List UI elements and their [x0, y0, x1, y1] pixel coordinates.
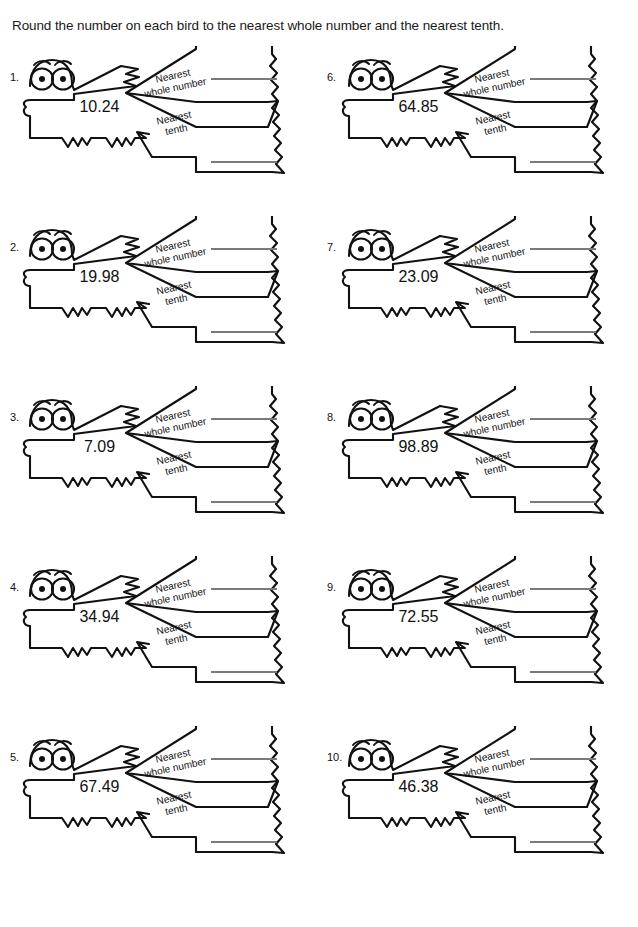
bird-problem-1: 1. 10.24 Nearest whole number Nearest te… — [0, 46, 319, 216]
bird-problem-4: 7. 23.09 Nearest whole number Nearest te… — [319, 216, 638, 386]
problem-row: 4. 34.94 Nearest whole number Nearest te… — [0, 556, 638, 726]
problem-row: 1. 10.24 Nearest whole number Nearest te… — [0, 46, 638, 216]
bird-problem-6: 8. 98.89 Nearest whole number Nearest te… — [319, 386, 638, 556]
page-title: Round the number on each bird to the nea… — [12, 18, 504, 33]
bird-right-pupil — [379, 76, 385, 82]
problem-grid: 1. 10.24 Nearest whole number Nearest te… — [0, 46, 638, 896]
problem-number: 2. — [10, 241, 19, 253]
bird-left-pupil — [39, 586, 45, 592]
problem-row: 5. 67.49 Nearest whole number Nearest te… — [0, 726, 638, 896]
bird-left-pupil — [39, 76, 45, 82]
problem-row: 2. 19.98 Nearest whole number Nearest te… — [0, 216, 638, 386]
bird-left-pupil — [39, 416, 45, 422]
bird-right-pupil — [60, 246, 66, 252]
problem-number: 6. — [327, 71, 336, 83]
bird-left-pupil — [39, 246, 45, 252]
bird-right-pupil — [60, 416, 66, 422]
problem-number: 9. — [327, 581, 336, 593]
bird-problem-2: 6. 64.85 Nearest whole number Nearest te… — [319, 46, 638, 216]
problem-number: 3. — [10, 411, 19, 423]
problem-number: 10. — [327, 751, 342, 763]
bird-problem-3: 2. 19.98 Nearest whole number Nearest te… — [0, 216, 319, 386]
bird-left-pupil — [358, 76, 364, 82]
bird-right-pupil — [60, 586, 66, 592]
bird-left-pupil — [358, 246, 364, 252]
bird-left-pupil — [358, 416, 364, 422]
bird-left-pupil — [358, 586, 364, 592]
bird-left-pupil — [358, 756, 364, 762]
bird-right-pupil — [379, 586, 385, 592]
bird-right-pupil — [60, 756, 66, 762]
bird-right-pupil — [60, 76, 66, 82]
problem-number: 7. — [327, 241, 336, 253]
bird-problem-5: 3. 7.09 Nearest whole number Nearest ten… — [0, 386, 319, 556]
bird-problem-9: 5. 67.49 Nearest whole number Nearest te… — [0, 726, 319, 896]
bird-problem-8: 9. 72.55 Nearest whole number Nearest te… — [319, 556, 638, 726]
problem-number: 5. — [10, 751, 19, 763]
problem-number: 1. — [10, 71, 19, 83]
problem-row: 3. 7.09 Nearest whole number Nearest ten… — [0, 386, 638, 556]
bird-right-pupil — [379, 246, 385, 252]
problem-number: 4. — [10, 581, 19, 593]
bird-right-pupil — [379, 416, 385, 422]
problem-number: 8. — [327, 411, 336, 423]
bird-problem-7: 4. 34.94 Nearest whole number Nearest te… — [0, 556, 319, 726]
bird-problem-10: 10. 46.38 Nearest whole number Nearest t… — [319, 726, 638, 896]
bird-left-pupil — [39, 756, 45, 762]
bird-right-pupil — [379, 756, 385, 762]
